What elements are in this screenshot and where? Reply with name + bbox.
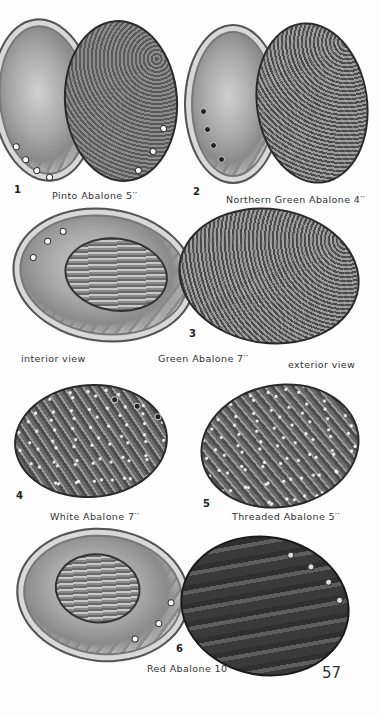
northern-green-abalone-exterior-illustration xyxy=(245,15,378,191)
figure-caption: Threaded Abalone 5′′ xyxy=(232,511,340,522)
figure-number: 4 xyxy=(16,490,23,501)
figure-number: 6 xyxy=(176,643,183,654)
field-guide-page: 1 Pinto Abalone 5′′ 2 Northern Green Aba… xyxy=(0,0,381,717)
white-abalone-illustration xyxy=(10,379,172,503)
green-abalone-exterior-illustration xyxy=(169,196,368,356)
page-number: 57 xyxy=(322,664,341,682)
green-abalone-interior-illustration xyxy=(4,196,205,354)
figure-caption: Northern Green Abalone 4′′ xyxy=(226,194,365,205)
threaded-abalone-illustration xyxy=(190,371,369,521)
red-abalone-interior-illustration xyxy=(9,519,196,670)
exterior-view-caption: exterior view xyxy=(288,359,355,370)
figure-caption: Green Abalone 7′′ xyxy=(158,353,249,364)
figure-caption: Pinto Abalone 5′′ xyxy=(52,190,138,201)
figure-caption: Red Abalone 10′′ xyxy=(147,663,233,674)
figure-number: 1 xyxy=(14,184,21,195)
figure-number: 5 xyxy=(203,498,210,509)
figure-caption: White Abalone 7′′ xyxy=(50,511,140,522)
interior-view-caption: interior view xyxy=(21,353,86,364)
figure-number: 2 xyxy=(193,186,200,197)
figure-number: 3 xyxy=(189,328,196,339)
